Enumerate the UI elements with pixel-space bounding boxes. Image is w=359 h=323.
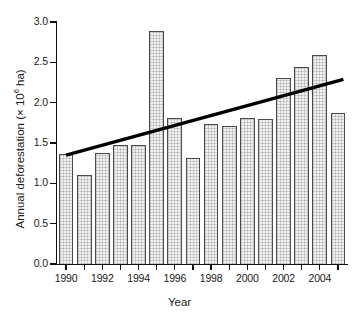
x-tick-mark — [65, 264, 66, 270]
x-tick-mark — [138, 264, 139, 270]
x-tick-mark — [229, 264, 230, 270]
y-tick-mark — [50, 183, 57, 184]
trend-line — [66, 79, 343, 155]
x-tick-mark — [319, 264, 320, 270]
y-tick-mark — [50, 62, 57, 63]
deforestation-bar-chart: 0.00.51.01.52.02.53.0 199019921994199619… — [0, 0, 359, 323]
y-axis-title: Annual deforestation (× 106 ha) — [12, 34, 26, 264]
y-tick-mark — [50, 142, 57, 143]
y-tick-mark — [50, 102, 57, 103]
x-axis-title: Year — [0, 296, 359, 308]
y-axis-title-exponent: 6 — [12, 89, 21, 93]
x-tick-label: 2000 — [227, 272, 267, 284]
x-tick-mark — [102, 264, 103, 270]
x-tick-mark — [156, 264, 157, 270]
x-tick-label: 1990 — [46, 272, 86, 284]
x-tick-mark — [120, 264, 121, 270]
x-tick-label: 2004 — [300, 272, 340, 284]
x-tick-mark — [247, 264, 248, 270]
x-tick-mark — [210, 264, 211, 270]
x-tick-mark — [337, 264, 338, 270]
x-tick-mark — [174, 264, 175, 270]
x-tick-mark — [301, 264, 302, 270]
plot-area — [57, 22, 347, 264]
y-tick-mark — [50, 263, 57, 264]
trend-line-series — [57, 22, 347, 264]
y-tick-mark — [50, 21, 57, 22]
y-tick-mark — [50, 223, 57, 224]
y-tick-label: 3.0 — [18, 15, 48, 27]
x-tick-label: 1994 — [119, 272, 159, 284]
y-axis-title-suffix: ha) — [14, 69, 26, 89]
x-tick-label: 1998 — [191, 272, 231, 284]
x-tick-label: 1996 — [155, 272, 195, 284]
x-tick-mark — [192, 264, 193, 270]
x-tick-mark — [84, 264, 85, 270]
x-tick-mark — [265, 264, 266, 270]
y-axis-title-prefix: Annual deforestation (× 10 — [14, 93, 26, 228]
x-tick-label: 2002 — [264, 272, 304, 284]
x-tick-mark — [283, 264, 284, 270]
x-tick-label: 1992 — [82, 272, 122, 284]
